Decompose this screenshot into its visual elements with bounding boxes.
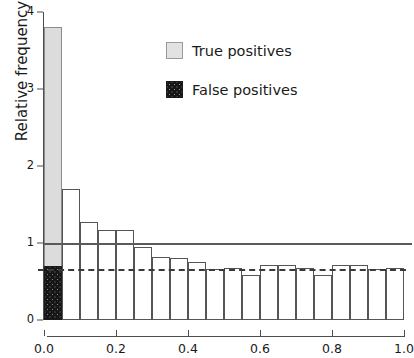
bar-true-positives-7 — [170, 258, 188, 320]
x-tick-label-0: 0.0 — [34, 341, 54, 356]
bar-true-positives-9 — [206, 269, 224, 320]
bar-true-positives-13 — [278, 265, 296, 320]
bar-false-positives-0 — [44, 266, 62, 320]
x-axis-line — [47, 336, 405, 337]
legend-swatch-light-square-icon — [166, 42, 183, 59]
bar-true-positives-16 — [332, 265, 350, 320]
x-tick-mark-5 — [404, 330, 405, 336]
x-tick-label-5: 1.0 — [394, 341, 414, 356]
x-tick-mark-1 — [116, 330, 117, 336]
bar-true-positives-10 — [224, 268, 242, 320]
legend-label-true-positives: True positives — [192, 43, 292, 59]
bar-true-positives-1 — [62, 189, 80, 320]
unity-reference-line — [44, 243, 412, 245]
threshold-reference-line — [38, 269, 406, 271]
bar-true-positives-18 — [368, 269, 386, 320]
y-tick-mark-4 — [37, 12, 43, 13]
bar-true-positives-17 — [350, 265, 368, 320]
x-tick-label-1: 0.2 — [106, 341, 126, 356]
legend-label-false-positives: False positives — [192, 82, 297, 98]
x-tick-label-4: 0.8 — [322, 341, 342, 356]
bar-true-positives-15 — [314, 275, 332, 320]
x-tick-mark-2 — [188, 330, 189, 336]
bar-true-positives-6 — [152, 257, 170, 320]
y-tick-mark-0 — [37, 320, 43, 321]
y-tick-label-0: 0 — [27, 314, 34, 326]
y-tick-mark-3 — [37, 89, 43, 90]
x-tick-mark-3 — [260, 330, 261, 336]
bar-true-positives-19 — [386, 268, 404, 320]
x-tick-label-3: 0.6 — [250, 341, 270, 356]
x-tick-label-2: 0.4 — [178, 341, 198, 356]
y-tick-label-1: 1 — [27, 237, 34, 249]
bar-true-positives-5 — [134, 247, 152, 320]
bar-true-positives-11 — [242, 275, 260, 320]
y-tick-mark-1 — [37, 243, 43, 244]
x-tick-mark-0 — [44, 330, 45, 336]
legend-entry-true-positives: True positives — [166, 42, 292, 59]
y-tick-label-3: 3 — [27, 83, 34, 95]
histogram-chart: Relative frequency 4 3 2 1 0 0.00.20.40.… — [0, 0, 414, 358]
y-tick-mark-2 — [37, 166, 43, 167]
y-tick-label-4: 4 — [27, 6, 34, 18]
x-tick-mark-4 — [332, 330, 333, 336]
bar-true-positives-14 — [296, 268, 314, 320]
bar-true-positives-12 — [260, 265, 278, 320]
legend-entry-false-positives: False positives — [166, 81, 297, 98]
legend-swatch-dark-dotted-square-icon — [166, 81, 183, 98]
y-tick-label-2: 2 — [27, 160, 34, 172]
